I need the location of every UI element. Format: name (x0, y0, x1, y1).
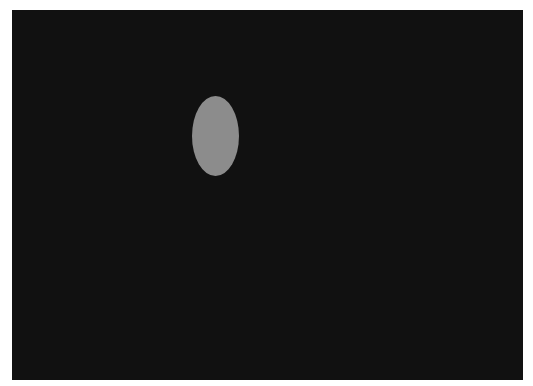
page (0, 0, 533, 386)
display-canvas (12, 10, 523, 380)
grey-ellipse-stimulus (192, 96, 239, 176)
